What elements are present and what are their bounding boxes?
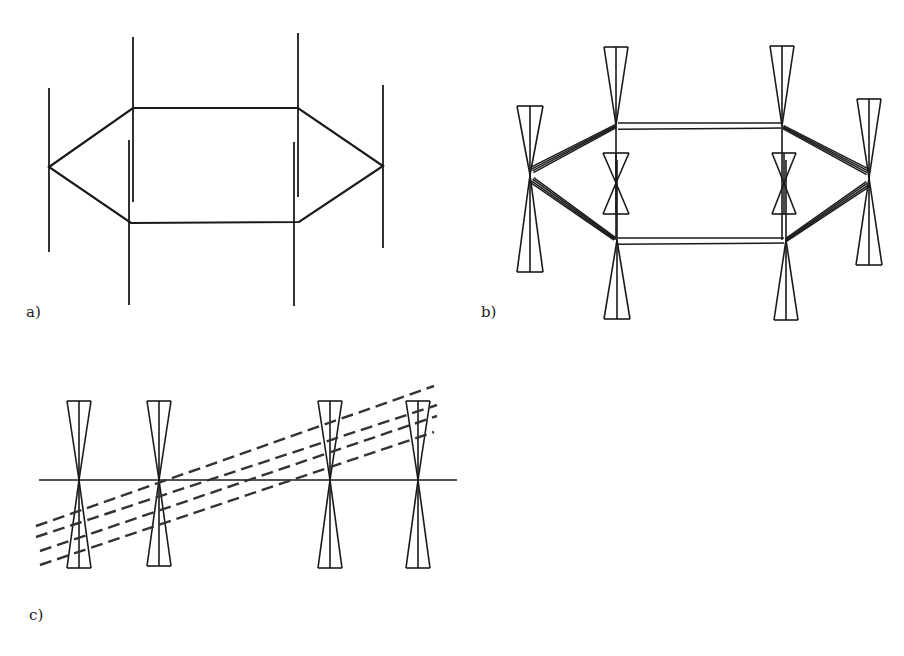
hourglass-side (517, 106, 530, 175)
hourglass-side (604, 47, 616, 125)
hourglass-side (418, 480, 430, 568)
hourglass-side (782, 46, 794, 126)
edge-line (784, 126, 870, 170)
hourglass-side (318, 480, 330, 568)
edge-line (531, 181, 614, 240)
hourglass-side (786, 240, 798, 320)
figure-canvas (0, 0, 904, 656)
hourglass-node (772, 153, 796, 214)
dashed-ray (36, 386, 434, 526)
edge-line (532, 126, 616, 170)
edge-line (787, 186, 870, 241)
edge-line (786, 183, 868, 239)
panel-c-baseline-bowties (36, 386, 457, 568)
hourglass-side (147, 480, 159, 566)
hourglass-node (856, 99, 882, 265)
hourglass-side (67, 401, 79, 480)
edge-line (618, 243, 784, 244)
hourglass-side (774, 240, 786, 320)
hourglass-side (616, 183, 629, 214)
panel-b-hexagon-bowties (517, 46, 882, 320)
hourglass-side (617, 240, 630, 319)
edge-line (782, 128, 866, 174)
hourglass-side (406, 480, 418, 568)
edge-line (533, 179, 616, 238)
hourglass-node (604, 160, 630, 319)
edge-line (783, 127, 868, 172)
hourglass-side (79, 480, 91, 568)
hourglass-node (67, 401, 91, 568)
hourglass-side (604, 240, 617, 319)
hourglass-side (770, 46, 782, 126)
panel-a-hexagon-lines (49, 33, 383, 306)
edge-line (786, 185, 868, 241)
hourglass-node (603, 153, 629, 214)
hourglass-side (147, 401, 159, 480)
dashed-ray (40, 432, 434, 565)
panel-label-a: a) (26, 303, 41, 321)
hourglass-node (406, 401, 430, 568)
hourglass-node (774, 160, 798, 320)
edge-line (530, 182, 614, 240)
edge-line (618, 128, 781, 129)
edge-line (532, 126, 616, 170)
dashed-ray (36, 405, 437, 537)
hourglass-side (603, 183, 616, 214)
hourglass-side (616, 153, 629, 183)
edge-line (534, 178, 616, 238)
hourglass-side (418, 401, 430, 480)
edge-line (785, 182, 866, 239)
edge-line (783, 127, 868, 172)
hourglass-side (869, 99, 881, 178)
edge-line (531, 125, 616, 168)
dashed-ray (40, 416, 437, 551)
panel-label-b: b) (481, 303, 496, 321)
hourglass-side (517, 175, 530, 272)
hourglass-side (869, 178, 882, 265)
hourglass-side (330, 480, 342, 568)
hourglass-side (603, 153, 616, 183)
hourglass-side (616, 47, 628, 125)
edge-line (533, 127, 616, 172)
hourglass-node (318, 401, 342, 568)
hexagon-ring (49, 108, 383, 223)
panel-label-c: c) (29, 606, 43, 624)
hourglass-side (79, 401, 91, 480)
hourglass-side (159, 401, 171, 480)
